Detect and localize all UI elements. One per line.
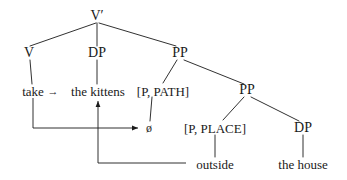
head-movement-path: [33, 98, 138, 128]
terminal-take: take: [22, 85, 44, 98]
node-pp-outer: PP: [172, 46, 188, 60]
inline-arrow-icon: →: [48, 86, 59, 97]
branch-pp-to-p-path: [163, 60, 177, 83]
node-root-vbar: V′: [90, 9, 103, 23]
node-dp-object: DP: [88, 46, 106, 60]
terminal-outside: outside: [196, 158, 234, 171]
node-pp-inner: PP: [239, 83, 255, 97]
terminal-null-head: ø: [146, 122, 152, 134]
branch-pp-to-pp-inner: [184, 60, 244, 84]
branch-root-to-v: [30, 23, 96, 46]
branch-p-path-to-null: [150, 97, 152, 121]
terminal-the-kittens: the kittens: [71, 85, 125, 98]
outside-raising-path: [98, 101, 186, 163]
branch-pp-inner-to-dp-ground: [251, 97, 299, 121]
syntax-tree-figure: V′ V DP PP PP [P, PATH] [P, PLACE] DP ta…: [0, 0, 347, 180]
branch-root-to-pp: [99, 23, 176, 46]
branch-v-to-take: [30, 60, 32, 84]
terminal-the-house: the house: [278, 158, 327, 171]
node-dp-ground: DP: [294, 121, 312, 135]
node-p-path: [P, PATH]: [137, 85, 189, 98]
node-v: V: [24, 46, 34, 60]
node-p-place: [P, PLACE]: [184, 122, 246, 135]
branch-pp-inner-to-p-place: [223, 97, 244, 120]
